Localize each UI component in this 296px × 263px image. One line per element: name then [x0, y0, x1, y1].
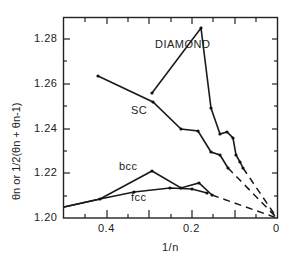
x-tick-label: 0 [273, 222, 280, 234]
fcc-label: fcc [131, 191, 147, 203]
x-tick-label: 0.2 [183, 222, 200, 234]
data-points [96, 26, 244, 200]
y-tick-label: 1.24 [34, 122, 57, 134]
bcc-label: bcc [119, 160, 138, 172]
x-tick-label: 0.4 [98, 222, 115, 234]
y-tick-label: 1.20 [34, 211, 57, 223]
extrapolation-lines [212, 168, 277, 218]
y-tick-label: 1.28 [34, 32, 57, 44]
x-axis-label: 1/n [162, 241, 179, 253]
y-axis-label: θn or 1/2(θn + θn-1) [10, 102, 22, 200]
y-tick-label: 1.26 [34, 77, 57, 89]
sc-label: SC [131, 104, 147, 116]
y-tick-label: 1.22 [34, 166, 57, 178]
diamond-label: DIAMOND [155, 38, 210, 50]
